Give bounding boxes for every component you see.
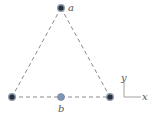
axis-y-label: y	[120, 72, 127, 83]
label-b: b	[58, 103, 64, 114]
edge-right	[61, 8, 110, 97]
edge-left	[12, 8, 61, 97]
wire-top	[57, 4, 65, 12]
wire-bottom-left	[8, 93, 16, 101]
axis-x-label: x	[142, 91, 148, 102]
axes-icon	[124, 82, 141, 97]
label-a: a	[68, 2, 74, 13]
triangle-diagram: a b y x	[0, 0, 153, 117]
point-b-marker	[58, 94, 65, 101]
wire-bottom-right	[106, 93, 114, 101]
